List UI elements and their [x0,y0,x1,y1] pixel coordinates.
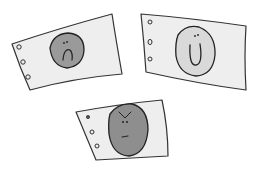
illustration-scene: sad face card happy face card angry face… [0,0,259,169]
card-sad [12,14,122,90]
sad-face-icon [50,33,84,68]
angry-face-icon [109,104,148,156]
happy-face-icon [176,26,215,76]
card-happy [141,14,246,90]
ring-hole-icon [86,115,89,118]
card-angry [76,100,168,160]
